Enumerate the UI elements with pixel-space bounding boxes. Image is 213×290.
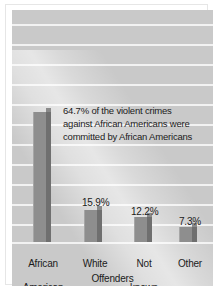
bar-front-face — [179, 227, 193, 242]
annotation-line-1: 64.7% of the violent crimes — [63, 104, 211, 117]
annotation-line-3: committed by African Americans — [63, 130, 211, 143]
bar-front-face — [134, 217, 148, 242]
bars-layer — [12, 10, 213, 286]
chart-frame: 15.9% 12.2% 7.3% 64.7% of the violent cr… — [5, 4, 208, 285]
bar-white[interactable] — [84, 206, 102, 242]
bar-value-label-not-known: 12.2% — [131, 206, 158, 217]
annotation-callout: 64.7% of the violent crimes against Afri… — [63, 104, 211, 143]
x-axis-title: Offenders — [12, 273, 213, 284]
bar-side-face — [46, 112, 51, 242]
annotation-line-2: against African Americans were — [63, 117, 211, 130]
bar-value-label-white: 15.9% — [82, 197, 109, 208]
bar-body — [84, 206, 102, 242]
bar-front-face — [33, 112, 47, 242]
category-label-line-1: White — [67, 258, 123, 270]
bar-top-face — [46, 108, 51, 112]
bar-value-label-other: 7.3% — [179, 216, 201, 227]
category-label-line-1: African — [15, 258, 71, 270]
category-label-line-1: Other — [162, 258, 213, 270]
bar-side-face — [97, 210, 102, 242]
bar-body — [33, 108, 51, 242]
bar-body — [134, 213, 152, 242]
bar-chart-figure: 15.9% 12.2% 7.3% 64.7% of the violent cr… — [0, 0, 213, 290]
bar-not-known[interactable] — [134, 213, 152, 242]
bar-side-face — [192, 227, 197, 242]
bar-side-face — [147, 217, 152, 242]
bar-african-american[interactable] — [33, 108, 51, 242]
plot-area: 15.9% 12.2% 7.3% 64.7% of the violent cr… — [12, 10, 213, 286]
bar-front-face — [84, 210, 98, 242]
